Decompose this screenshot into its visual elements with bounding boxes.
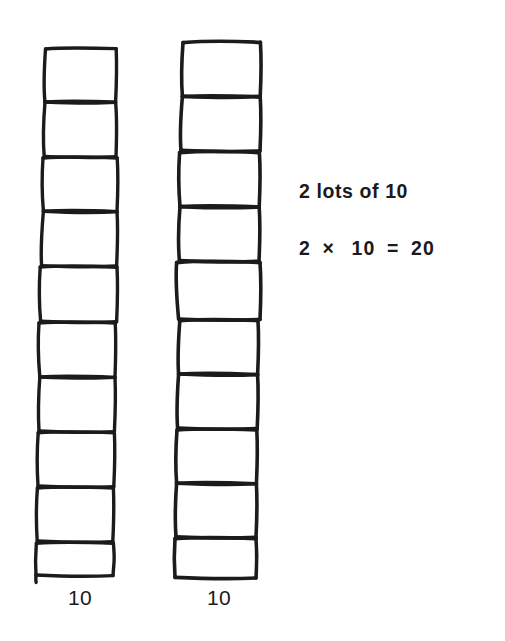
statements-block: 2 lots of 10 2 × 10 = 20 bbox=[299, 182, 495, 258]
worksheet-canvas: 10 10 2 lots of 10 2 × 10 = 20 bbox=[0, 0, 505, 641]
right-column-value-label: 10 bbox=[178, 586, 260, 610]
lots-statement: 2 lots of 10 bbox=[299, 182, 495, 202]
equation-statement: 2 × 10 = 20 bbox=[299, 239, 495, 259]
equation-factor-a: 2 bbox=[299, 237, 311, 259]
right-column-of-squares bbox=[168, 30, 284, 592]
equals-sign-icon: = bbox=[387, 237, 400, 259]
left-column-value-label: 10 bbox=[42, 586, 118, 610]
right-column-sketch bbox=[168, 30, 284, 592]
left-column-of-squares bbox=[30, 34, 140, 590]
equation-factor-b: 10 bbox=[352, 237, 376, 259]
multiplication-sign-icon: × bbox=[322, 237, 335, 259]
equation-product: 20 bbox=[411, 237, 435, 259]
left-column-sketch bbox=[30, 34, 140, 590]
